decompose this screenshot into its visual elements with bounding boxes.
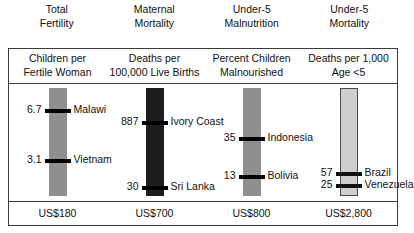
top-header-line-1: Maternal xyxy=(106,3,204,17)
unit-header-line-1: Deaths per xyxy=(106,52,203,66)
marker-tick-bolivia xyxy=(239,175,265,179)
top-header-line-1: Total xyxy=(8,3,106,17)
marker-tick-indonesia xyxy=(239,137,265,141)
top-header-maternal-mortality: Maternal Mortality xyxy=(106,3,204,45)
unit-header-children-per-fertile-woman: Children per Fertile Woman xyxy=(9,49,106,83)
top-header-line-2: Malnutrition xyxy=(203,17,301,31)
marker-country-venezuela: Venezuela xyxy=(365,179,414,190)
marker-tick-vietnam xyxy=(45,159,71,163)
unit-header-line-2: Age <5 xyxy=(300,66,397,80)
chart-frame: Children per Fertile Woman Deaths per 10… xyxy=(8,48,398,226)
top-header-row: Total Fertility Maternal Mortality Under… xyxy=(8,3,398,45)
range-bar-under5-mortality xyxy=(340,88,358,196)
unit-header-deaths-per-1000-age-under-5: Deaths per 1,000 Age <5 xyxy=(300,49,397,83)
footer-value-total-fertility: US$180 xyxy=(9,202,106,225)
footer-value-under5-malnutrition: US$800 xyxy=(203,202,300,225)
footer-value-maternal-mortality: US$700 xyxy=(106,202,203,225)
top-header-line-2: Fertility xyxy=(8,17,106,31)
plot-cell-total-fertility: 6.7 Malawi 3.1 Vietnam xyxy=(9,84,106,201)
marker-country-brazil: Brazil xyxy=(365,167,391,178)
marker-value-bolivia: 13 xyxy=(224,170,236,181)
marker-value-indonesia: 35 xyxy=(224,132,236,143)
marker-country-bolivia: Bolivia xyxy=(268,170,299,181)
unit-header-line-2: 100,000 Live Births xyxy=(106,66,203,80)
top-header-line-2: Mortality xyxy=(106,17,204,31)
top-header-line-1: Under-5 xyxy=(203,3,301,17)
range-bar-under5-malnutrition xyxy=(243,88,261,196)
marker-tick-venezuela xyxy=(336,184,362,188)
top-header-line-1: Under-5 xyxy=(301,3,399,17)
marker-value-ivory-coast: 887 xyxy=(121,116,139,127)
marker-value-sri-lanka: 30 xyxy=(127,181,139,192)
marker-value-malawi: 6.7 xyxy=(27,104,42,115)
marker-tick-malawi xyxy=(45,109,71,113)
plot-area: 6.7 Malawi 3.1 Vietnam 887 Ivory Coast 3… xyxy=(9,84,397,201)
marker-country-malawi: Malawi xyxy=(74,104,107,115)
top-header-under5-malnutrition: Under-5 Malnutrition xyxy=(203,3,301,45)
footer-row: US$180 US$700 US$800 US$2,800 xyxy=(9,201,397,225)
unit-header-deaths-per-100000-live-births: Deaths per 100,000 Live Births xyxy=(106,49,203,83)
unit-header-line-1: Deaths per 1,000 xyxy=(300,52,397,66)
marker-value-brazil: 57 xyxy=(321,167,333,178)
top-header-line-2: Mortality xyxy=(301,17,399,31)
plot-cell-under5-mortality: 57 Brazil 25 Venezuela xyxy=(300,84,397,201)
unit-header-line-2: Fertile Woman xyxy=(9,66,106,80)
top-header-total-fertility: Total Fertility xyxy=(8,3,106,45)
range-bar-maternal-mortality xyxy=(146,88,164,196)
top-header-under5-mortality: Under-5 Mortality xyxy=(301,3,399,45)
unit-header-line-1: Percent Children xyxy=(203,52,300,66)
marker-value-vietnam: 3.1 xyxy=(27,154,42,165)
unit-header-percent-children-malnourished: Percent Children Malnourished xyxy=(203,49,300,83)
range-bar-total-fertility xyxy=(49,88,67,196)
marker-value-venezuela: 25 xyxy=(321,179,333,190)
plot-cell-under5-malnutrition: 35 Indonesia 13 Bolivia xyxy=(203,84,300,201)
plot-cell-maternal-mortality: 887 Ivory Coast 30 Sri Lanka xyxy=(106,84,203,201)
marker-tick-sri-lanka xyxy=(142,186,168,190)
footer-value-under5-mortality: US$2,800 xyxy=(300,202,397,225)
unit-header-line-1: Children per xyxy=(9,52,106,66)
unit-header-row: Children per Fertile Woman Deaths per 10… xyxy=(9,49,397,84)
unit-header-line-2: Malnourished xyxy=(203,66,300,80)
marker-tick-ivory-coast xyxy=(142,121,168,125)
marker-tick-brazil xyxy=(336,172,362,176)
